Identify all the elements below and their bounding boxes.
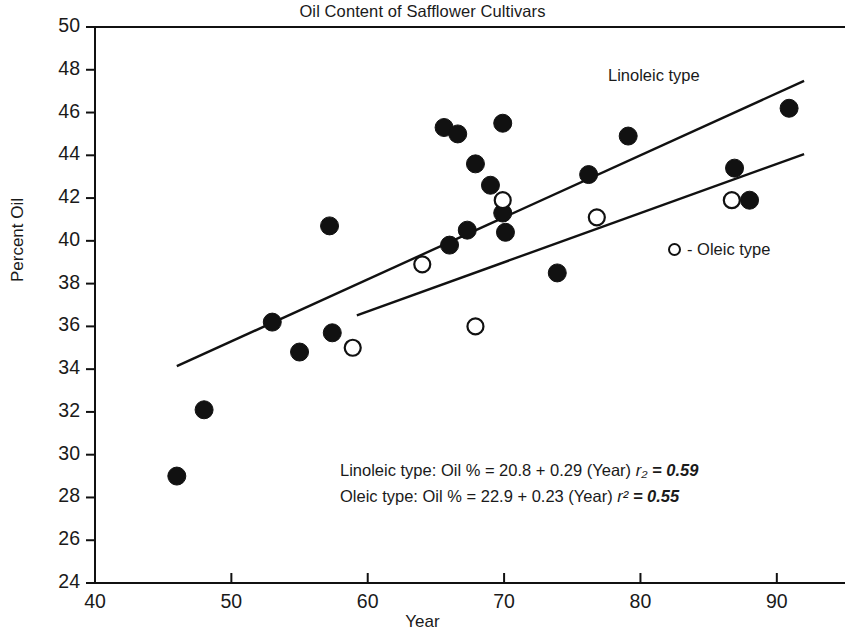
equation-linoleic: Linoleic type: Oil % = 20.8 + 0.29 (Year… — [340, 457, 698, 483]
open-data-point — [345, 340, 361, 356]
chart-page: Oil Content of Safflower Cultivars Perce… — [0, 0, 845, 643]
filled-data-point — [195, 401, 213, 419]
legend-oleic: - Oleic type — [668, 240, 770, 259]
filled-data-point — [458, 221, 476, 239]
filled-data-point — [168, 467, 186, 485]
filled-data-point — [741, 191, 759, 209]
open-data-point — [467, 318, 483, 334]
filled-data-point — [449, 125, 467, 143]
equation-oleic-rvalue: = 0.55 — [628, 487, 679, 505]
filled-data-point — [466, 155, 484, 173]
open-data-point — [724, 192, 740, 208]
regression-equations: Linoleic type: Oil % = 20.8 + 0.29 (Year… — [340, 457, 698, 509]
equation-oleic: Oleic type: Oil % = 22.9 + 0.23 (Year) r… — [340, 483, 698, 509]
filled-data-point — [580, 166, 598, 184]
filled-data-point — [441, 236, 459, 254]
filled-data-point — [726, 159, 744, 177]
legend-oleic-label: - Oleic type — [687, 240, 770, 259]
equation-linoleic-rsymbol: r₂ — [636, 461, 648, 479]
plot-area — [0, 0, 845, 643]
open-circle-icon — [668, 243, 681, 256]
filled-data-point — [481, 176, 499, 194]
equation-oleic-text: Oleic type: Oil % = 22.9 + 0.23 (Year) — [340, 487, 617, 505]
filled-data-point — [496, 223, 514, 241]
filled-data-point — [321, 217, 339, 235]
equation-oleic-rsymbol: r² — [617, 487, 628, 505]
open-data-point — [414, 256, 430, 272]
filled-data-point — [494, 114, 512, 132]
data-point-markers — [168, 99, 798, 485]
open-data-point — [589, 209, 605, 225]
filled-data-point — [780, 99, 798, 117]
equation-linoleic-text: Linoleic type: Oil % = 20.8 + 0.29 (Year… — [340, 461, 636, 479]
open-data-point — [495, 192, 511, 208]
filled-data-point — [291, 343, 309, 361]
linoleic-line-label: Linoleic type — [608, 66, 700, 85]
filled-data-point — [323, 324, 341, 342]
filled-data-point — [619, 127, 637, 145]
filled-data-point — [263, 313, 281, 331]
equation-linoleic-rvalue: = 0.59 — [647, 461, 698, 479]
filled-data-point — [548, 264, 566, 282]
